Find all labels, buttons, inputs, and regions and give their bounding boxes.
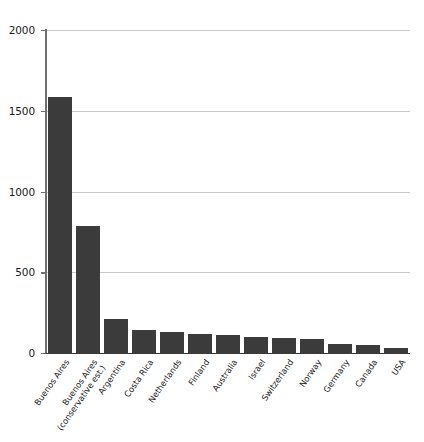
x-axis-label: Netherlands: [147, 358, 184, 405]
y-axis-tick: [41, 272, 46, 273]
y-axis-tick-label: 1500: [9, 105, 35, 117]
y-axis-tick: [41, 192, 46, 193]
x-axis-label: Switzerland: [260, 358, 296, 403]
y-axis-tick: [41, 111, 46, 112]
x-axis-label-line: Switzerland: [260, 358, 296, 403]
bar[interactable]: [76, 226, 101, 353]
x-axis-label: Argentina: [97, 358, 128, 397]
y-axis-tick-label: 500: [15, 266, 35, 278]
x-axis-label-line: Costa Rica: [123, 358, 156, 399]
x-axis-label-line: Canada: [354, 358, 380, 389]
x-axis-label: Costa Rica: [123, 358, 156, 399]
y-axis-tick: [41, 353, 46, 354]
x-axis-label-line: Buenos Aires: [33, 358, 72, 408]
x-axis-label: Australia: [211, 358, 240, 393]
y-axis-tick-label: 2000: [9, 24, 35, 36]
bar[interactable]: [244, 337, 269, 353]
x-axis-line: [45, 353, 410, 355]
x-axis-label-line: Australia: [211, 358, 240, 393]
x-axis-label: Israel: [247, 358, 268, 382]
x-axis-label-line: Norway: [298, 358, 324, 389]
bar[interactable]: [300, 339, 325, 353]
x-axis-label-line: USA: [390, 358, 408, 378]
plot-area: [46, 30, 410, 353]
x-axis-label: Canada: [354, 358, 380, 389]
bar[interactable]: [188, 334, 213, 353]
x-axis-label-line: Germany: [322, 358, 352, 395]
y-axis-tick: [41, 30, 46, 31]
y-axis-tick-label: 0: [28, 347, 35, 359]
x-axis-label-line: Netherlands: [147, 358, 184, 405]
x-axis-label-line: Finland: [187, 358, 212, 388]
x-axis-label: Germany: [322, 358, 352, 395]
x-axis-label: Norway: [298, 358, 324, 389]
y-axis-tick-label: 1000: [9, 186, 35, 198]
bar[interactable]: [216, 335, 241, 353]
x-axis-label-line: Buenos Aires: [48, 358, 100, 427]
x-axis-label: USA: [390, 358, 408, 378]
bar-chart: 0500100015002000 Buenos AiresBuenos Aire…: [0, 0, 424, 442]
x-axis-label: Finland: [187, 358, 212, 388]
x-axis-label: Buenos Aires: [33, 358, 72, 408]
bar[interactable]: [272, 338, 297, 353]
x-axis-label-line: Israel: [247, 358, 268, 382]
bar[interactable]: [104, 319, 129, 353]
x-axis-label-line: Argentina: [97, 358, 128, 397]
x-axis-label: Buenos Aires(conservative est.): [48, 358, 108, 433]
x-axis-label-line: (conservative est.): [55, 364, 107, 433]
bar[interactable]: [160, 332, 185, 353]
bar[interactable]: [132, 330, 157, 353]
bar-series: [46, 30, 410, 353]
bar[interactable]: [48, 97, 73, 353]
